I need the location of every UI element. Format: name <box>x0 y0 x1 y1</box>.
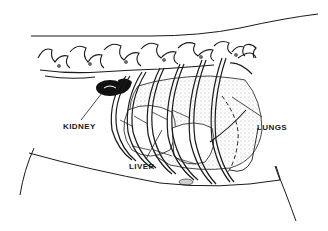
label-lungs: LUNGS <box>257 124 287 132</box>
anatomy-diagram: KIDNEY LIVER LUNGS <box>0 0 328 231</box>
kidney-leader <box>81 93 102 120</box>
hindleg-outline <box>276 166 296 221</box>
anatomy-drawing <box>0 0 328 231</box>
label-kidney: KIDNEY <box>63 123 96 131</box>
spine <box>38 42 256 79</box>
foreleg-outline <box>20 148 34 195</box>
label-liver: LIVER <box>129 163 155 171</box>
gallbladder <box>179 179 193 185</box>
back-outline <box>31 14 318 36</box>
